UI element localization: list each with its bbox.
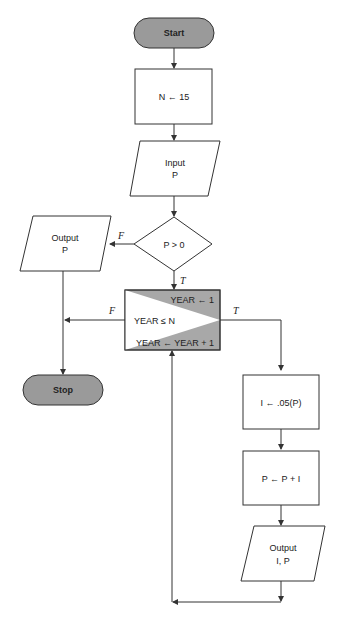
output-p-line1: Output <box>51 233 79 243</box>
calc-i-label: I ← .05(P) <box>260 398 301 408</box>
decision-p-diamond: P > 0 <box>134 217 212 271</box>
calc-p-box: P ← P + I <box>243 451 319 505</box>
loop-test-label: YEAR ≤ N <box>134 316 175 326</box>
start-terminal: Start <box>134 18 214 48</box>
stop-terminal: Stop <box>23 375 103 405</box>
output-p-box: Output P <box>20 216 111 271</box>
calc-p-label: P ← P + I <box>262 474 300 484</box>
loop-true-label: T <box>233 305 240 316</box>
calc-i-box: I ← .05(P) <box>243 375 319 429</box>
output-p-line2: P <box>62 245 68 255</box>
output-ip-box: Output I, P <box>241 526 325 581</box>
output-ip-line1: Output <box>269 543 297 553</box>
input-p-line1: Input <box>165 158 186 168</box>
loop-false-label: F <box>108 305 116 316</box>
output-ip-line2: I, P <box>276 556 290 566</box>
loop-box: YEAR ← 1 YEAR ≤ N YEAR ← YEAR + 1 <box>125 290 220 350</box>
loop-incr-label: YEAR ← YEAR + 1 <box>136 338 214 348</box>
decision-label: P > 0 <box>163 240 184 250</box>
flowchart: Start N ← 15 Input P P > 0 F T Output P … <box>0 0 341 620</box>
edge-loop-true <box>220 320 281 370</box>
decision-false-label: F <box>117 230 125 241</box>
loop-init-label: YEAR ← 1 <box>170 295 214 305</box>
input-p-line2: P <box>172 170 178 180</box>
decision-true-label: T <box>180 275 187 286</box>
init-n-label: N ← 15 <box>159 92 190 102</box>
stop-label: Stop <box>53 385 73 395</box>
start-label: Start <box>164 28 185 38</box>
init-n-box: N ← 15 <box>135 69 212 124</box>
input-p-box: Input P <box>130 141 220 196</box>
